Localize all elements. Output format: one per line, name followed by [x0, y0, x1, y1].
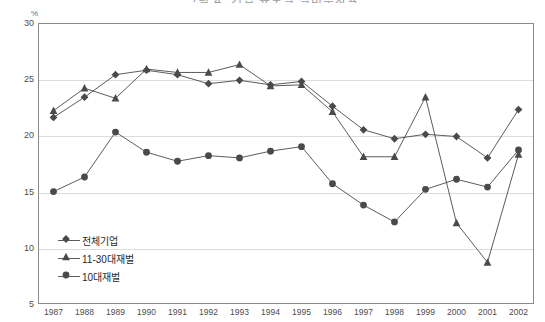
y-axis-tick-labels: 51015202530 [0, 23, 34, 304]
data-point-marker [236, 76, 244, 84]
data-point-marker [81, 93, 89, 101]
data-point-marker [360, 126, 368, 134]
data-point-marker [62, 253, 70, 260]
triangle-marker-icon [60, 249, 72, 267]
legend-swatch [58, 271, 80, 281]
series-line [54, 132, 519, 222]
data-point-marker [360, 202, 367, 209]
legend-label: 전체기업 [82, 233, 118, 248]
data-point-marker [63, 272, 70, 279]
data-point-marker [422, 186, 429, 193]
series-line [54, 70, 519, 158]
data-point-marker [422, 93, 430, 100]
x-tick-label: 2002 [509, 307, 528, 317]
data-point-marker [391, 135, 399, 143]
data-point-marker [515, 147, 522, 154]
x-tick-label: 1995 [292, 307, 311, 317]
data-point-marker [81, 84, 89, 91]
y-tick-label: 10 [8, 243, 34, 253]
data-point-marker [484, 154, 492, 162]
y-tick-label: 20 [8, 130, 34, 140]
chart-legend: 전체기업11-30대재벌10대재벌 [58, 231, 178, 285]
legend-item[interactable]: 전체기업 [58, 231, 178, 249]
data-point-marker [484, 184, 491, 191]
y-tick-label: 5 [8, 299, 34, 309]
data-point-marker [143, 149, 150, 156]
x-tick-label: 1987 [44, 307, 63, 317]
x-tick-label: 1996 [323, 307, 342, 317]
y-tick-label: 30 [8, 18, 34, 28]
diamond-marker-icon [60, 231, 72, 249]
data-point-marker [236, 60, 244, 67]
data-point-marker [391, 219, 398, 226]
x-tick-label: 1992 [199, 307, 218, 317]
data-point-marker [391, 153, 399, 160]
data-point-marker [267, 148, 274, 155]
x-tick-label: 1991 [168, 307, 187, 317]
chart-title: 그림 4. 기업 규모별 설비투자율 [0, 0, 545, 3]
data-point-marker [50, 188, 57, 195]
data-point-marker [360, 153, 368, 160]
chart-screenshot: 그림 4. 기업 규모별 설비투자율 % 51015202530 1987198… [0, 0, 545, 322]
x-axis-tick-labels: 1987198819891990199119921993199419951996… [38, 305, 534, 321]
data-point-marker [62, 235, 70, 243]
series-diamond [50, 66, 523, 161]
data-point-marker [174, 158, 181, 165]
data-point-marker [50, 114, 58, 122]
x-tick-label: 2000 [447, 307, 466, 317]
legend-label: 10대재벌 [82, 269, 120, 284]
data-point-marker [453, 176, 460, 183]
x-tick-label: 1999 [416, 307, 435, 317]
data-point-marker [112, 71, 120, 79]
circle-marker-icon [60, 267, 72, 285]
data-point-marker [112, 129, 119, 136]
data-point-marker [453, 133, 461, 141]
x-tick-label: 1998 [385, 307, 404, 317]
data-point-marker [143, 65, 151, 72]
x-tick-label: 1990 [137, 307, 156, 317]
y-tick-label: 25 [8, 74, 34, 84]
x-tick-label: 1988 [75, 307, 94, 317]
x-tick-label: 1993 [230, 307, 249, 317]
x-tick-label: 1994 [261, 307, 280, 317]
data-point-marker [453, 219, 461, 226]
data-point-marker [236, 154, 243, 161]
legend-item[interactable]: 10대재벌 [58, 267, 178, 285]
series-circle [50, 129, 522, 226]
legend-item[interactable]: 11-30대재벌 [58, 249, 178, 267]
x-tick-label: 2001 [478, 307, 497, 317]
data-point-marker [515, 106, 523, 114]
y-tick-label: 15 [8, 187, 34, 197]
x-tick-label: 1997 [354, 307, 373, 317]
legend-label: 11-30대재벌 [82, 251, 134, 266]
data-point-marker [81, 174, 88, 181]
data-point-marker [205, 80, 213, 88]
data-point-marker [298, 143, 305, 150]
y-axis-unit-label: % [31, 9, 38, 18]
legend-swatch [58, 235, 80, 245]
data-point-marker [50, 106, 58, 113]
data-point-marker [329, 180, 336, 187]
data-point-marker [422, 130, 430, 138]
data-point-marker [205, 152, 212, 159]
legend-swatch [58, 253, 80, 263]
x-tick-label: 1989 [106, 307, 125, 317]
